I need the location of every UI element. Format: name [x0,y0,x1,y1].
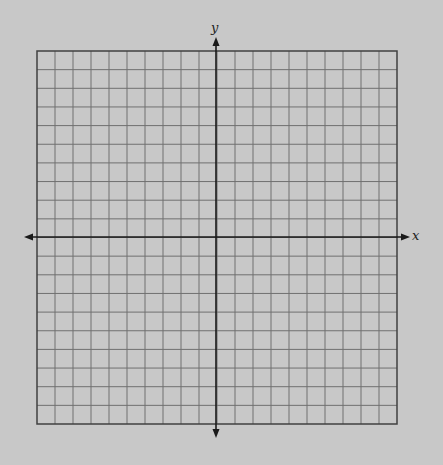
x-axis-left-arrow-icon [24,234,33,241]
y-axis-down-arrow-icon [213,429,220,438]
y-axis-label: y [211,20,218,35]
x-axis-label: x [412,228,419,243]
coordinate-plane [0,0,443,465]
x-axis-right-arrow-icon [401,234,410,241]
y-axis-up-arrow-icon [213,37,220,46]
